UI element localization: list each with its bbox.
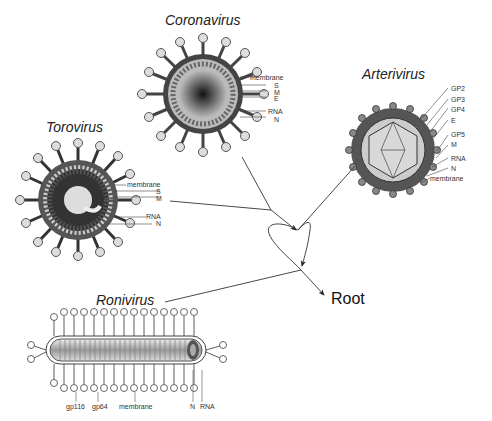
arterivirus-label-gp3: GP3 bbox=[451, 96, 465, 103]
torovirus-virion bbox=[16, 139, 161, 261]
coronavirus-label-n: N bbox=[274, 116, 279, 123]
ronivirus-label-gp116: gp116 bbox=[66, 403, 85, 410]
ronivirus-label-rna: RNA bbox=[200, 403, 215, 410]
root-label: Root bbox=[331, 290, 365, 308]
torovirus-label-n: N bbox=[156, 220, 161, 227]
phylogeny-tree bbox=[165, 157, 355, 302]
torovirus-label-membrane: membrane bbox=[127, 181, 160, 188]
ronivirus-virion bbox=[28, 309, 227, 403]
arterivirus-label-m: M bbox=[451, 141, 457, 148]
arterivirus-label-e: E bbox=[451, 117, 456, 124]
ronivirus-title: Ronivirus bbox=[96, 292, 154, 308]
torovirus-label-rna: RNA bbox=[146, 213, 161, 220]
arterivirus-label-gp2: GP2 bbox=[451, 85, 465, 92]
coronavirus-label-membrane: membrane bbox=[250, 74, 283, 81]
arterivirus-label-rna: RNA bbox=[451, 155, 466, 162]
arterivirus-label-gp5: GP5 bbox=[451, 131, 465, 138]
arterivirus-title: Arterivirus bbox=[362, 66, 425, 82]
arterivirus-label-membrane: membrane bbox=[430, 175, 463, 182]
ronivirus-label-membrane: membrane bbox=[119, 403, 152, 410]
ronivirus-label-gp64: gp64 bbox=[92, 403, 108, 410]
label-text: GP3 bbox=[451, 96, 465, 103]
arterivirus-label-n: N bbox=[451, 165, 456, 172]
virion-illustrations bbox=[0, 0, 492, 421]
coronavirus-title: Coronavirus bbox=[165, 12, 240, 28]
torovirus-title: Torovirus bbox=[46, 119, 103, 135]
torovirus-label-s: S bbox=[156, 188, 161, 195]
coronavirus-label-rna: RNA bbox=[268, 108, 283, 115]
arterivirus-label-gp4: GP4 bbox=[451, 106, 465, 113]
coronavirus-label-s: S bbox=[274, 82, 279, 89]
label-text: GP4 bbox=[451, 106, 465, 113]
torovirus-label-m: M bbox=[156, 195, 162, 202]
coronavirus-label-e: E bbox=[274, 95, 279, 102]
label-text: GP2 bbox=[451, 85, 465, 92]
ronivirus-label-n: N bbox=[190, 403, 195, 410]
coronavirus-virion bbox=[138, 34, 269, 157]
